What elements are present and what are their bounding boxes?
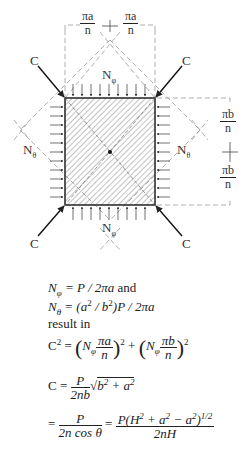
force-label-top-left: C <box>30 53 39 69</box>
equation-n-theta: Nθ = (a2 / b2)P / 2πa <box>48 298 155 317</box>
membrane-force-diagram <box>0 0 247 265</box>
n-theta-left-label: Nθ <box>23 142 36 160</box>
force-label-bottom-left: C <box>30 236 39 252</box>
n-phi-bottom-label: Nφ <box>102 220 116 238</box>
top-dimension-right: πan <box>123 10 138 37</box>
top-dimension-left: πan <box>80 10 95 37</box>
result-in-text: result in <box>48 316 90 332</box>
n-theta-right-label: Nθ <box>177 142 190 160</box>
equation-c: C = P2nb√b2 + a2 <box>48 374 134 401</box>
equation-n-phi: Nφ = P / 2πa and <box>48 280 136 298</box>
right-dimension-bottom: πbn <box>220 164 236 191</box>
force-label-top-right: C <box>182 53 191 69</box>
right-dimension-top: πbn <box>220 108 236 135</box>
n-phi-top-label: Nφ <box>102 67 116 85</box>
force-label-bottom-right: C <box>182 236 191 252</box>
equation-c-cos: = P2n cos θ = P(H2 + a2 − a2)1/22nH <box>48 410 214 440</box>
equation-c-squared: C2 = (Nφπan)2 + (Nφπbn)2 <box>48 334 189 361</box>
